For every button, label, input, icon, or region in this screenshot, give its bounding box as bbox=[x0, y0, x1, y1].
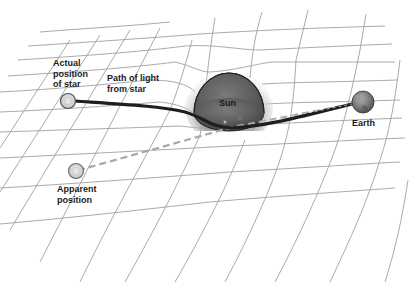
label-actual-position: Actual position of star bbox=[53, 58, 88, 90]
spacetime-diagram: Actual position of star Path of light fr… bbox=[0, 0, 419, 282]
spacetime-grid bbox=[0, 0, 419, 282]
label-path-of-light: Path of light from star bbox=[107, 73, 159, 94]
grid-receding-lines bbox=[0, 10, 408, 282]
label-earth: Earth bbox=[352, 118, 375, 129]
label-apparent-position: Apparent position bbox=[57, 184, 97, 205]
actual-star bbox=[61, 94, 76, 109]
earth bbox=[352, 91, 374, 113]
label-sun: Sun bbox=[219, 98, 236, 109]
apparent-star bbox=[69, 164, 84, 179]
